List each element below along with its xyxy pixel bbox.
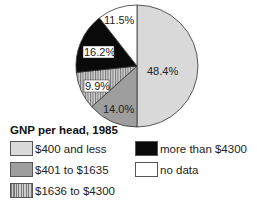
slice-label-48-4: 48.4% [147,65,178,77]
slice-label-11-5: 11.5% [104,14,135,26]
slice-label-14-0: 14.0% [103,103,134,115]
legend-item-no-data: no data [135,162,198,177]
legend-item-401-to-1635: $401 to $1635 [10,162,109,177]
legend-swatch-striped [10,183,33,198]
legend-label: no data [160,164,198,176]
legend-swatch-light-grey [10,141,33,156]
legend-swatch-white [135,162,158,177]
legend-label: $400 and less [35,143,107,155]
legend-label: more than $4300 [160,143,247,155]
legend-title: GNP per head, 1985 [10,124,118,136]
legend-item-400-and-less: $400 and less [10,141,107,156]
legend-item-1636-to-4300: $1636 to $4300 [10,183,115,198]
slice-label-16-2: 16.2% [84,46,115,58]
legend-item-more-than-4300: more than $4300 [135,141,247,156]
pie-chart: 48.4% 14.0% 9.9% 16.2% 11.5% [0,0,257,135]
legend-label: $401 to $1635 [35,164,109,176]
legend-swatch-black [135,141,158,156]
legend-label: $1636 to $4300 [35,185,115,197]
slice-label-9-9: 9.9% [85,80,110,92]
legend-swatch-mid-grey [10,162,33,177]
